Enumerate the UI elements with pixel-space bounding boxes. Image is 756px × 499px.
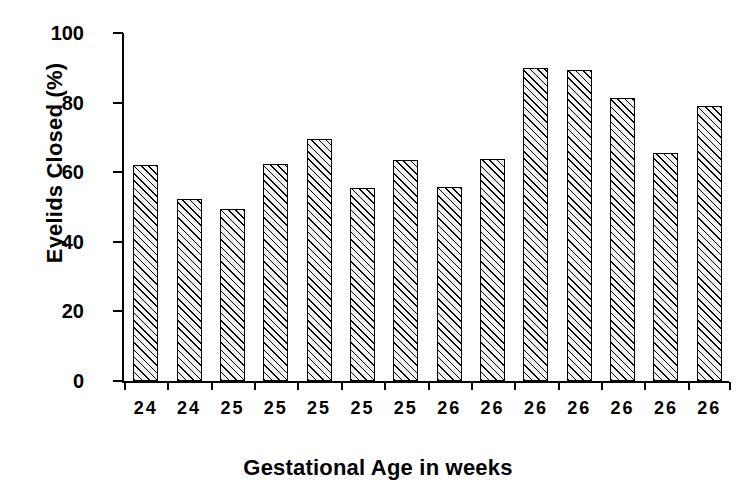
bar <box>610 98 635 381</box>
y-axis-tick-label: 20 <box>30 300 84 323</box>
x-axis-tick <box>167 382 169 390</box>
bar-chart-figure: Eyelids Closed (%) 020406080100 24242525… <box>0 0 756 499</box>
x-axis-tick-label: 26 <box>524 398 548 419</box>
x-axis-tick <box>601 382 603 390</box>
y-axis-tick-label: 80 <box>30 91 84 114</box>
x-axis-tick-label: 25 <box>220 398 244 419</box>
bar <box>393 160 418 381</box>
plot-area: 020406080100 242425252525252626262626262… <box>122 33 729 381</box>
y-axis-tick <box>113 241 123 243</box>
y-axis-tick-label: 40 <box>30 230 84 253</box>
bar <box>523 68 548 381</box>
x-axis-tick <box>428 382 430 390</box>
x-axis-tick <box>688 382 690 390</box>
x-axis-tick <box>471 382 473 390</box>
x-axis-tick <box>514 382 516 390</box>
y-axis-tick-label: 0 <box>30 370 84 393</box>
x-axis-tick <box>729 382 731 390</box>
x-axis-tick-label: 24 <box>134 398 158 419</box>
bar <box>480 159 505 381</box>
x-axis-tick-label: 26 <box>481 398 505 419</box>
x-axis-tick-label: 26 <box>611 398 635 419</box>
x-axis-tick-label: 25 <box>307 398 331 419</box>
y-axis-tick <box>113 102 123 104</box>
x-axis-tick <box>297 382 299 390</box>
bar <box>220 209 245 381</box>
x-axis-tick <box>341 382 343 390</box>
x-axis-tick <box>254 382 256 390</box>
bar <box>263 164 288 382</box>
bar <box>133 165 158 381</box>
x-axis-tick <box>558 382 560 390</box>
x-axis-tick <box>644 382 646 390</box>
x-axis-tick <box>124 382 126 390</box>
x-axis-title: Gestational Age in weeks <box>0 455 756 481</box>
x-axis-tick <box>384 382 386 390</box>
y-axis-tick <box>113 380 123 382</box>
bar <box>307 139 332 381</box>
x-axis-tick-label: 26 <box>437 398 461 419</box>
x-axis-line <box>122 381 729 383</box>
y-axis-tick <box>113 171 123 173</box>
x-axis-tick <box>211 382 213 390</box>
bar <box>697 106 722 381</box>
y-axis-tick <box>113 310 123 312</box>
bar <box>177 199 202 381</box>
bar <box>653 153 678 381</box>
y-axis-line <box>122 33 124 382</box>
y-axis-tick <box>113 32 123 34</box>
y-axis-tick-label: 100 <box>30 22 84 45</box>
y-axis-tick-label: 60 <box>30 161 84 184</box>
x-axis-tick-label: 25 <box>350 398 374 419</box>
bar <box>437 187 462 381</box>
bar <box>567 70 592 381</box>
x-axis-tick-label: 26 <box>654 398 678 419</box>
x-axis-tick-label: 25 <box>394 398 418 419</box>
x-axis-tick-label: 25 <box>264 398 288 419</box>
x-axis-tick-label: 26 <box>567 398 591 419</box>
x-axis-tick-label: 24 <box>177 398 201 419</box>
x-axis-tick-label: 26 <box>697 398 721 419</box>
bar <box>350 188 375 381</box>
